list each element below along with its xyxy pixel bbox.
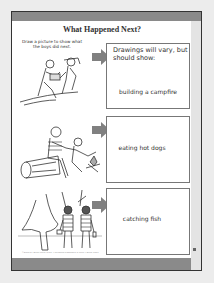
answer-text: building a campfire (107, 88, 189, 95)
answer-box-3: catching fish (106, 188, 190, 255)
bottom-band (12, 258, 192, 270)
bottom-corner (191, 258, 201, 270)
answer-text: catching fish (101, 215, 183, 222)
instructions-text: Draw a picture to show what the boys did… (21, 39, 83, 49)
worksheet-title: What Happened Next? (12, 25, 192, 34)
page-number-marker (193, 248, 196, 251)
answer-text: eating hot dogs (101, 144, 183, 151)
answer-box-2: eating hot dogs (106, 116, 190, 183)
right-margin-strip (191, 21, 201, 259)
answer-box-1: Drawings will vary, but should show: bui… (106, 43, 190, 109)
answer-note: Drawings will vary, but should show: (113, 46, 189, 62)
worksheet-page: What Happened Next? Draw a picture to sh… (11, 11, 202, 271)
boys-gathering-wood-icon (16, 50, 90, 110)
top-band (12, 12, 201, 21)
copyright-footer: ©2008 by Evan-Moor Corp. • Reading Passa… (22, 251, 99, 254)
